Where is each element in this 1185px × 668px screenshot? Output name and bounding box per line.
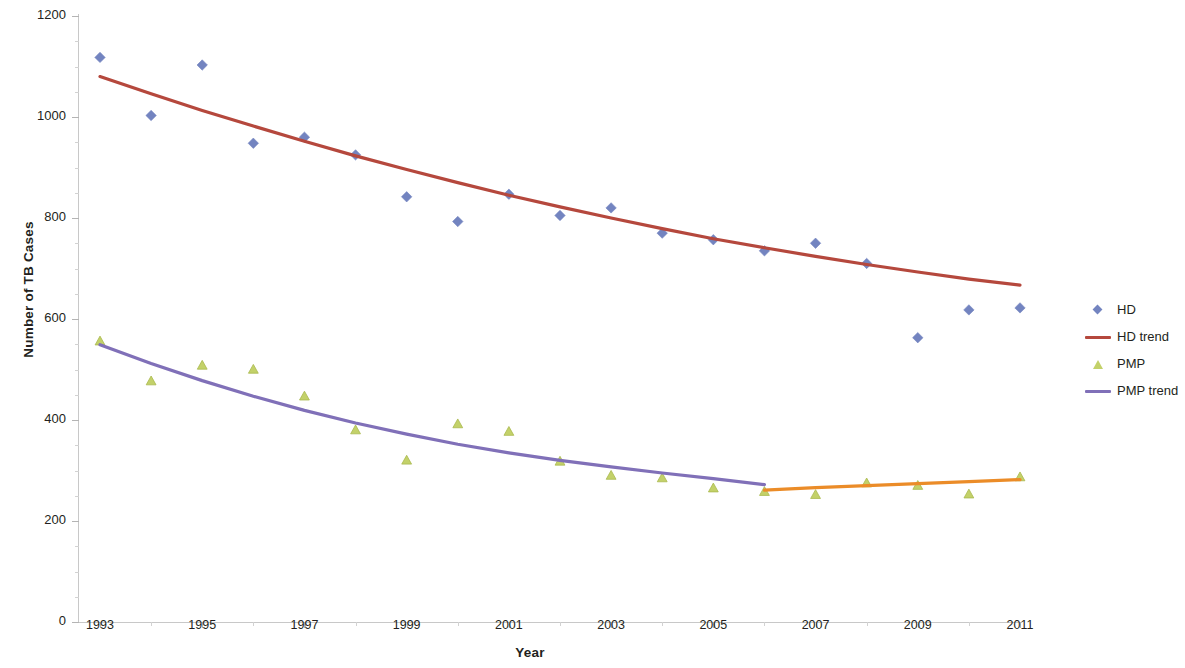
data-point-diamond	[401, 192, 411, 202]
legend-line-swatch	[1085, 336, 1111, 339]
tb-cases-chart: Number of TB Cases Year 0200400600800100…	[0, 0, 1185, 668]
data-point-triangle	[402, 455, 412, 464]
data-point-triangle	[300, 391, 310, 400]
legend-diamond-swatch	[1093, 305, 1103, 315]
legend-label: HD	[1117, 302, 1136, 317]
data-point-diamond	[95, 52, 105, 62]
data-point-triangle	[351, 425, 361, 434]
data-point-diamond	[146, 110, 156, 120]
data-point-diamond	[555, 210, 565, 220]
trend-line-pmp-trend-recent	[764, 480, 1020, 491]
legend-item-hd[interactable]: HD	[1085, 296, 1185, 323]
legend-key-triangle	[1085, 357, 1111, 371]
data-point-diamond	[606, 203, 616, 213]
data-point-diamond	[1015, 303, 1025, 313]
legend-key-diamond	[1085, 303, 1111, 317]
trend-line-hd-trend	[100, 77, 1020, 286]
legend-key-line	[1085, 384, 1111, 398]
data-point-triangle	[964, 489, 974, 498]
legend-label: HD trend	[1117, 329, 1169, 344]
data-point-triangle	[453, 419, 463, 428]
data-point-triangle	[248, 364, 258, 373]
data-point-triangle	[708, 483, 718, 492]
legend-triangle-swatch	[1093, 360, 1103, 369]
legend-key-line	[1085, 330, 1111, 344]
plot-area	[0, 0, 1185, 668]
data-point-triangle	[504, 427, 514, 436]
data-point-diamond	[248, 138, 258, 148]
data-point-diamond	[964, 305, 974, 315]
legend-line-swatch	[1085, 390, 1111, 393]
data-point-triangle	[606, 470, 616, 479]
legend-item-pmp[interactable]: PMP	[1085, 350, 1185, 377]
legend-item-pmp-trend[interactable]: PMP trend	[1085, 377, 1185, 404]
data-point-diamond	[810, 238, 820, 248]
data-point-triangle	[811, 490, 821, 499]
data-point-diamond	[913, 332, 923, 342]
data-point-triangle	[146, 376, 156, 385]
data-point-diamond	[453, 216, 463, 226]
series-markers-hd	[95, 52, 1025, 343]
legend-item-hd-trend[interactable]: HD trend	[1085, 323, 1185, 350]
legend-label: PMP trend	[1117, 383, 1178, 398]
series-markers-pmp	[95, 336, 1025, 498]
data-point-triangle	[197, 360, 207, 369]
chart-legend: HDHD trendPMPPMP trend	[1085, 296, 1185, 404]
data-point-diamond	[197, 60, 207, 70]
legend-label: PMP	[1117, 356, 1145, 371]
